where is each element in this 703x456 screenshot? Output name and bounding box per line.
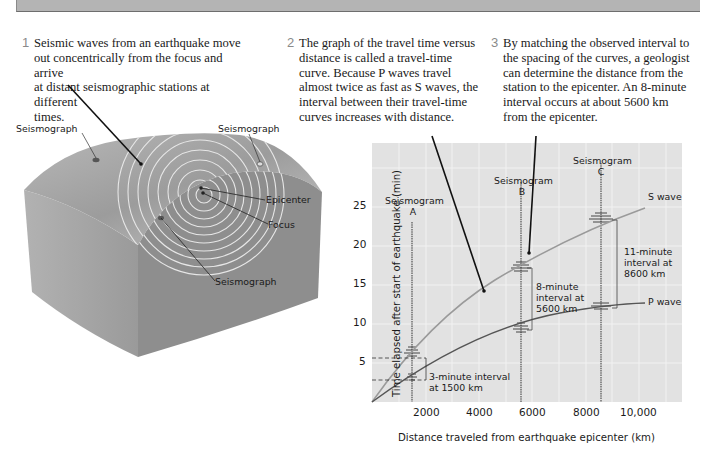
x-tick-4000: 4000 — [466, 406, 493, 418]
x-axis-label: Distance traveled from earthquake epicen… — [398, 432, 655, 443]
seismogram-b-title: Seismogram — [494, 175, 550, 186]
seismograph-label-bottom: Seismograph — [215, 276, 277, 287]
x-tick-10000: 10,000 — [620, 406, 657, 418]
seismograph-marker-right — [257, 162, 263, 166]
interval-a-line: at 1500 km — [429, 382, 510, 393]
x-tick-8000: 8000 — [573, 406, 600, 418]
y-tick-5: 5 — [359, 355, 366, 367]
interval-c-line: 11-minute — [624, 246, 672, 257]
x-tick-6000: 6000 — [519, 406, 546, 418]
interval-c-line: 8600 km — [624, 268, 672, 279]
y-tick-25: 25 — [353, 199, 366, 211]
p-wave-label: P wave — [648, 296, 681, 307]
seismogram-c-letter: C — [573, 166, 629, 177]
y-tick-15: 15 — [353, 277, 366, 289]
y-tick-10: 10 — [353, 316, 366, 328]
interval-b-line: 5600 km — [536, 303, 584, 314]
epicenter-label: Epicenter — [266, 194, 311, 205]
y-tick-20: 20 — [353, 238, 366, 250]
interval-c-label: 11-minute interval at 8600 km — [624, 246, 672, 279]
seismogram-c-label: Seismogram C — [573, 155, 629, 177]
seismograph-label-right: Seismograph — [218, 123, 280, 134]
seismograph-marker-left — [93, 158, 100, 162]
interval-b-line: interval at — [536, 292, 584, 303]
x-tick-2000: 2000 — [413, 406, 440, 418]
interval-c-line: interval at — [624, 257, 672, 268]
interval-b-line: 8-minute — [536, 281, 584, 292]
y-axis-label: Time elapsed after start of earthquake (… — [391, 164, 402, 404]
interval-a-label: 3-minute interval at 1500 km — [429, 371, 510, 393]
seismogram-b-letter: B — [494, 186, 550, 197]
seismograph-label-left: Seismograph — [16, 123, 78, 134]
interval-b-label: 8-minute interval at 5600 km — [536, 281, 584, 314]
s-wave-label: S wave — [648, 191, 682, 202]
interval-a-line: 3-minute interval — [429, 371, 510, 382]
seismogram-c-title: Seismogram — [573, 155, 629, 166]
seismogram-b-label: Seismogram B — [494, 175, 550, 197]
focus-label: Focus — [268, 219, 295, 230]
